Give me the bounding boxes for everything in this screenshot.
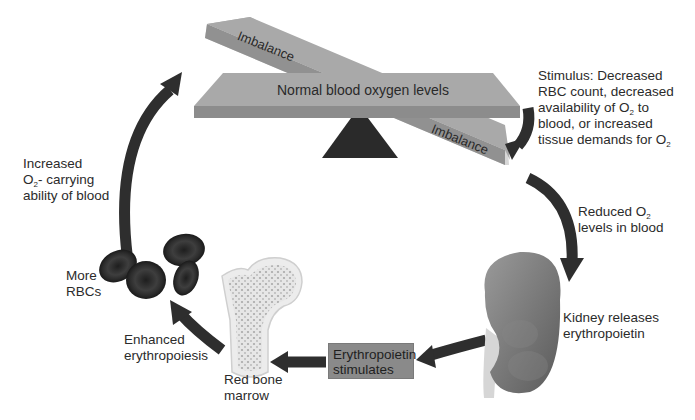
- stimulus-label: Stimulus: Decreased RBC count, decreased…: [538, 68, 674, 148]
- kidney-to-epo-arrow: [428, 340, 486, 356]
- normal-level-label: Normal blood oxygen levels: [277, 82, 449, 98]
- increased-o2-label: Increased O2- carrying ability of blood: [23, 156, 109, 204]
- reduced-o2-label: Reduced O2 levels in blood: [578, 204, 664, 236]
- more-rbcs-label: More RBCs: [66, 268, 101, 300]
- erythropoiesis-label: Enhanced erythropoiesis: [124, 332, 208, 364]
- fulcrum: [322, 118, 398, 158]
- kidney-label: Kidney releases erythropoietin: [563, 310, 659, 342]
- bone-marrow-label: Red bone marrow: [224, 372, 283, 404]
- arrowhead-epo: [416, 345, 436, 368]
- erythropoietin-box: Erythropoietin stimulates: [328, 343, 414, 379]
- rbc-to-beam-arrow: [125, 90, 170, 262]
- reduced-o2-arrow: [528, 178, 572, 262]
- arrowhead-bone: [270, 351, 288, 373]
- kidney-illustration: [483, 252, 560, 398]
- arrowhead-reduced-o2: [560, 258, 584, 282]
- rbc-cluster: [93, 231, 207, 299]
